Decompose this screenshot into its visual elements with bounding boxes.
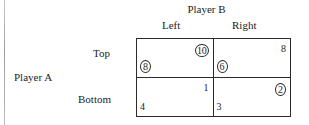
matrix-row-bottom: 1 4 2 3 (137, 78, 290, 117)
cell-top-right-column-player-payoff: 8 (281, 44, 286, 54)
page-edge-line (4, 0, 5, 125)
matrix-row-top: 10 8 8 6 (137, 39, 290, 78)
cell-top-right: 8 6 (214, 39, 291, 77)
cell-top-left-column-player-payoff: 10 (195, 44, 208, 57)
cell-bottom-right-row-player-payoff: 3 (217, 102, 222, 112)
row-header-top: Top (93, 48, 110, 59)
cell-top-left: 10 8 (137, 39, 214, 77)
column-header-right: Right (232, 20, 256, 31)
column-header-left: Left (162, 20, 180, 31)
cell-bottom-right: 2 3 (214, 78, 291, 117)
column-player-label: Player B (0, 4, 309, 15)
cell-bottom-left-column-player-payoff: 1 (204, 83, 209, 93)
cell-top-left-row-player-payoff: 8 (140, 60, 151, 73)
row-player-label: Player A (14, 72, 52, 83)
cell-bottom-right-column-player-payoff: 2 (275, 83, 286, 96)
cell-bottom-left-row-player-payoff: 4 (140, 102, 145, 112)
payoff-matrix: 10 8 8 6 1 4 2 3 (136, 38, 291, 117)
row-header-bottom: Bottom (78, 94, 111, 105)
cell-top-right-row-player-payoff: 6 (217, 60, 228, 73)
cell-bottom-left: 1 4 (137, 78, 214, 117)
